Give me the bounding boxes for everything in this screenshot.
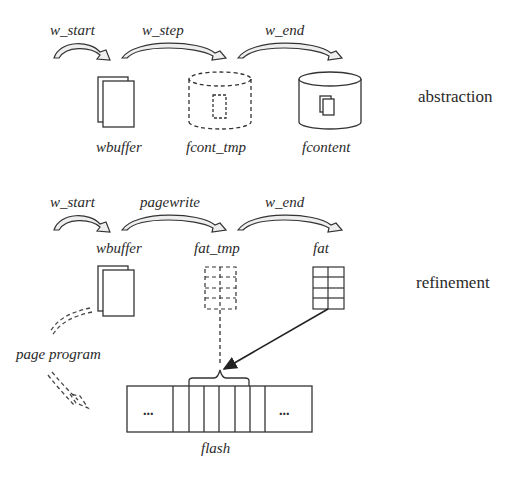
transition-label-w-end-abs: w_end (265, 22, 305, 38)
flash-ellipsis-left: ... (143, 403, 154, 418)
transition-label-w-end-ref: w_end (265, 194, 305, 210)
table-icon (313, 267, 344, 309)
wbuffer-icon (98, 77, 134, 127)
state-label-wbuffer-abs: wbuffer (96, 139, 142, 155)
curved-arrow-icon (122, 215, 226, 232)
dashed-cylinder-icon (189, 72, 251, 129)
state-label-fat: fat (313, 240, 330, 256)
refinement-label: refinement (416, 273, 490, 292)
transition-label-w-start-abs: w_start (50, 22, 96, 38)
wbuffer-icon (98, 266, 134, 316)
state-label-fcontent: fcontent (302, 139, 351, 155)
curved-arrow-icon (238, 43, 342, 60)
flash-label: flash (201, 440, 230, 456)
curved-arrow-icon (238, 215, 342, 232)
curved-arrow-icon (54, 44, 110, 60)
cylinder-icon (299, 72, 361, 129)
transition-label-w-step: w_step (142, 22, 184, 38)
page-program-label: page program (15, 346, 101, 362)
dashed-table-icon (205, 267, 236, 309)
curved-arrow-icon (122, 43, 226, 60)
abstraction-label: abstraction (418, 87, 493, 106)
state-label-fcont-tmp: fcont_tmp (186, 139, 246, 155)
transition-label-pagewrite: pagewrite (139, 194, 200, 210)
brace (189, 370, 249, 387)
fat-to-flash-arrow (224, 309, 328, 369)
state-label-fat-tmp: fat_tmp (194, 240, 240, 256)
curved-arrow-icon (54, 216, 110, 232)
refinement-diagram: w_start w_step w_end wbuffer fcont_tmp f… (0, 0, 532, 477)
state-label-wbuffer-ref: wbuffer (96, 240, 142, 256)
transition-label-w-start-ref: w_start (50, 194, 96, 210)
flash-ellipsis-right: ... (279, 403, 290, 418)
